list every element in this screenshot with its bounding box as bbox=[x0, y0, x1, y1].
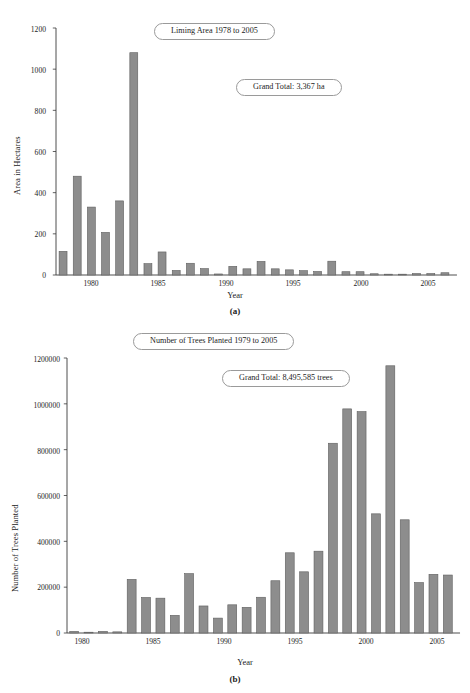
bar bbox=[314, 551, 323, 633]
bar bbox=[415, 583, 424, 633]
bar bbox=[127, 579, 136, 633]
bar bbox=[199, 606, 208, 633]
bar bbox=[384, 274, 392, 275]
figure-b-trees-planted: Number of Trees Planted 1979 to 2005 Gra… bbox=[0, 330, 470, 693]
bar bbox=[285, 270, 293, 275]
bar bbox=[186, 263, 194, 275]
bar bbox=[443, 575, 452, 633]
bar bbox=[102, 232, 110, 275]
bar bbox=[70, 631, 79, 633]
bar bbox=[328, 261, 336, 275]
bar bbox=[215, 274, 223, 275]
bar bbox=[84, 632, 93, 633]
bar bbox=[172, 270, 180, 275]
bar bbox=[400, 520, 409, 633]
bar bbox=[357, 412, 366, 633]
bar bbox=[142, 597, 151, 633]
bar bbox=[271, 269, 279, 275]
bar bbox=[185, 574, 194, 633]
bar bbox=[73, 176, 81, 275]
bar bbox=[98, 631, 107, 633]
bar bbox=[144, 264, 152, 275]
chart-a-plot-area bbox=[0, 0, 470, 330]
bar bbox=[285, 553, 294, 633]
bar bbox=[201, 269, 209, 275]
bar bbox=[116, 201, 124, 275]
bar bbox=[386, 366, 395, 633]
bar bbox=[228, 605, 237, 633]
bar bbox=[300, 572, 309, 633]
bar bbox=[413, 274, 421, 275]
bar bbox=[113, 632, 122, 633]
bar bbox=[213, 618, 222, 633]
bar bbox=[257, 597, 266, 633]
bar bbox=[343, 409, 352, 633]
bar bbox=[156, 598, 165, 633]
bar bbox=[356, 272, 364, 275]
bar bbox=[170, 615, 179, 633]
chart-a-axes bbox=[53, 28, 457, 275]
bar bbox=[271, 581, 280, 633]
bar bbox=[300, 271, 308, 275]
chart-a-bars bbox=[59, 53, 449, 275]
bar bbox=[87, 207, 95, 275]
bar bbox=[130, 53, 138, 275]
bar bbox=[328, 443, 337, 633]
bar bbox=[441, 273, 449, 275]
bar bbox=[314, 272, 322, 276]
bar bbox=[429, 574, 438, 633]
bar bbox=[158, 252, 166, 275]
figure-a-liming-area: Liming Area 1978 to 2005 Grand Total: 3,… bbox=[0, 0, 470, 330]
bar bbox=[427, 274, 435, 275]
bar bbox=[372, 514, 381, 633]
bar bbox=[229, 266, 237, 275]
chart-b-plot-area bbox=[0, 330, 470, 693]
chart-b-bars bbox=[70, 366, 453, 633]
bar bbox=[243, 269, 251, 275]
bar bbox=[370, 274, 378, 275]
bar bbox=[242, 607, 251, 633]
bar bbox=[342, 272, 350, 275]
bar bbox=[257, 261, 265, 275]
bar bbox=[59, 251, 67, 275]
bar bbox=[399, 274, 407, 275]
